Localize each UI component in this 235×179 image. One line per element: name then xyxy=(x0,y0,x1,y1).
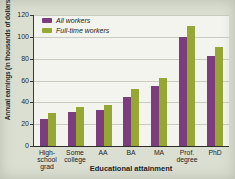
bar-group-4 xyxy=(151,78,167,146)
legend-item-all-workers: All workers xyxy=(42,17,109,24)
y-tick-label-80: 80 xyxy=(0,55,29,63)
y-tick-mark-100 xyxy=(30,37,33,38)
y-tick-mark-60 xyxy=(30,81,33,82)
legend-item-full-time-workers: Full-time workers xyxy=(42,27,109,34)
bar-group-5 xyxy=(179,26,195,146)
bar-full-time-workers-0 xyxy=(48,113,56,146)
bar-full-time-workers-1 xyxy=(76,107,84,146)
legend: All workers Full-time workers xyxy=(42,17,109,34)
y-tick-label-0: 0 xyxy=(0,142,29,150)
scanned-figure: Annual earnings (in thousands of dollars… xyxy=(0,0,235,179)
y-tick-mark-120 xyxy=(30,15,33,16)
bar-full-time-workers-6 xyxy=(215,47,223,146)
bar-all-workers-0 xyxy=(40,119,48,146)
bar-group-1 xyxy=(68,107,84,146)
y-tick-label-120: 120 xyxy=(0,11,29,19)
bar-chart: Annual earnings (in thousands of dollars… xyxy=(0,0,235,179)
bar-full-time-workers-5 xyxy=(187,26,195,146)
y-tick-label-40: 40 xyxy=(0,98,29,106)
y-tick-mark-40 xyxy=(30,102,33,103)
bar-all-workers-3 xyxy=(123,97,131,146)
x-axis-title: Educational attainment xyxy=(33,164,229,173)
bar-full-time-workers-2 xyxy=(104,105,112,146)
bar-all-workers-1 xyxy=(68,112,76,146)
bar-group-2 xyxy=(96,105,112,146)
plot-area: All workers Full-time workers xyxy=(33,15,229,147)
y-tick-label-60: 60 xyxy=(0,77,29,85)
bars-container xyxy=(34,15,229,146)
bar-all-workers-2 xyxy=(96,110,104,146)
legend-label-all-workers: All workers xyxy=(56,17,90,24)
legend-swatch-all-workers xyxy=(42,18,52,23)
legend-label-full-time-workers: Full-time workers xyxy=(56,27,109,34)
bar-all-workers-5 xyxy=(179,37,187,146)
y-tick-label-100: 100 xyxy=(0,33,29,41)
bar-group-6 xyxy=(207,47,223,146)
legend-swatch-full-time-workers xyxy=(42,28,52,33)
y-tick-mark-80 xyxy=(30,59,33,60)
bar-all-workers-4 xyxy=(151,86,159,146)
y-tick-mark-20 xyxy=(30,124,33,125)
bar-all-workers-6 xyxy=(207,56,215,146)
y-tick-label-20: 20 xyxy=(0,120,29,128)
bar-full-time-workers-4 xyxy=(159,78,167,146)
bar-group-0 xyxy=(40,113,56,146)
bar-group-3 xyxy=(123,89,139,146)
y-tick-mark-0 xyxy=(30,146,33,147)
bar-full-time-workers-3 xyxy=(131,89,139,146)
